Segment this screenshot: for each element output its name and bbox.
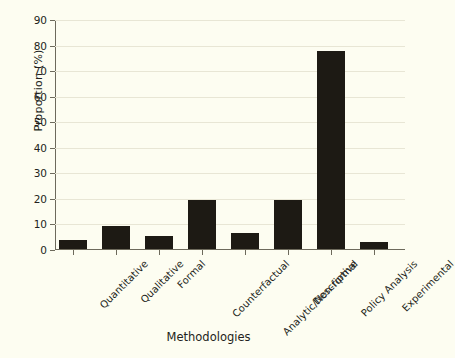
y-axis-tick-label: 20 xyxy=(34,193,47,205)
x-axis-tick xyxy=(374,250,375,255)
gridline xyxy=(55,122,405,123)
y-axis-tick xyxy=(50,122,55,123)
y-axis-tick xyxy=(50,148,55,149)
x-axis-tick-label: Counterfactual xyxy=(230,258,291,319)
y-axis-tick-label: 70 xyxy=(34,65,47,77)
bar xyxy=(59,240,87,249)
y-axis-tick xyxy=(50,224,55,225)
bar xyxy=(317,51,345,249)
y-axis-tick xyxy=(50,71,55,72)
y-axis-tick-label: 0 xyxy=(40,244,47,256)
y-axis-tick-label: 80 xyxy=(34,40,47,52)
y-axis-tick-label: 40 xyxy=(34,142,47,154)
y-axis-tick-label: 30 xyxy=(34,167,47,179)
gridline xyxy=(55,97,405,98)
x-axis-tick xyxy=(116,250,117,255)
bar xyxy=(145,236,173,249)
x-axis-title: Methodologies xyxy=(0,330,417,344)
bar xyxy=(188,200,216,249)
y-axis-tick-label: 60 xyxy=(34,91,47,103)
gridline xyxy=(55,173,405,174)
y-axis-tick-label: 90 xyxy=(34,14,47,26)
y-axis-tick xyxy=(50,46,55,47)
x-axis-tick-label: Descriptive xyxy=(310,258,359,307)
y-axis-tick xyxy=(50,250,55,251)
gridline xyxy=(55,20,405,21)
x-axis-tick xyxy=(73,250,74,255)
y-axis-tick xyxy=(50,173,55,174)
gridline xyxy=(55,148,405,149)
y-axis-tick-label: 10 xyxy=(34,218,47,230)
bar xyxy=(274,200,302,249)
x-axis-tick xyxy=(288,250,289,255)
bar xyxy=(102,226,130,249)
y-axis-tick-label: 50 xyxy=(34,116,47,128)
plot-area: 0102030405060708090QuantitativeQualitati… xyxy=(55,20,405,250)
gridline xyxy=(55,199,405,200)
bar xyxy=(360,242,388,249)
y-axis-tick xyxy=(50,199,55,200)
x-axis-tick xyxy=(331,250,332,255)
x-axis-tick-label: Quantitative xyxy=(97,258,150,311)
gridline xyxy=(55,71,405,72)
gridline xyxy=(55,46,405,47)
x-axis-tick xyxy=(159,250,160,255)
x-axis-tick xyxy=(245,250,246,255)
y-axis-tick xyxy=(50,97,55,98)
bar xyxy=(231,233,259,249)
x-axis-tick xyxy=(202,250,203,255)
y-axis-tick xyxy=(50,20,55,21)
